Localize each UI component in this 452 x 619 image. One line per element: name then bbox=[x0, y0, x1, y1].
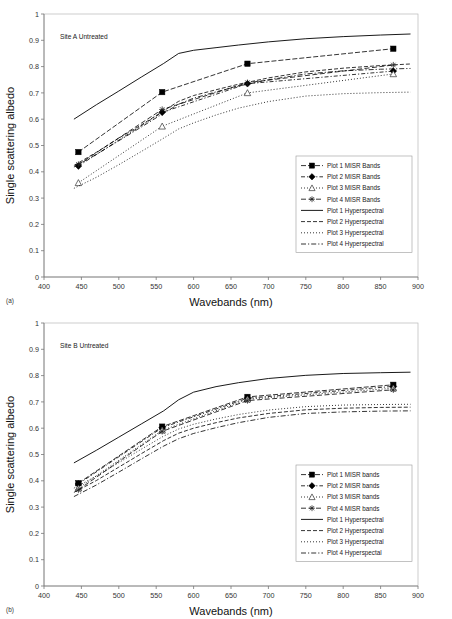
x-axis-title: Wavebands (nm) bbox=[189, 605, 272, 617]
x-axis-tick-label: 700 bbox=[262, 591, 274, 600]
y-axis-tick-label: 0.7 bbox=[29, 398, 39, 407]
x-axis-tick-label: 400 bbox=[38, 591, 50, 600]
marker-cross-star bbox=[75, 487, 81, 493]
x-axis-tick-label: 600 bbox=[188, 591, 200, 600]
series-2 bbox=[75, 68, 397, 170]
y-axis-title: Single scattering albedo bbox=[4, 87, 16, 204]
legend-label: Plot 3 MISR bands bbox=[327, 493, 380, 500]
marker-open-triangle bbox=[244, 90, 250, 96]
panel-label: (a) bbox=[6, 297, 14, 305]
y-axis-tick-label: 0.2 bbox=[29, 220, 39, 229]
x-axis-tick-label: 450 bbox=[75, 591, 87, 600]
figure-container: 00.10.20.30.40.50.60.70.80.9140045050055… bbox=[0, 0, 452, 619]
chart-svg: 00.10.20.30.40.50.60.70.80.9140045050055… bbox=[0, 0, 452, 309]
marker-cross-star bbox=[390, 387, 396, 393]
marker-open-triangle bbox=[159, 123, 165, 129]
marker-cross-star bbox=[309, 196, 315, 202]
y-axis-tick-label: 0.1 bbox=[29, 246, 39, 255]
x-axis-tick-label: 500 bbox=[113, 591, 125, 600]
y-axis-tick-label: 0 bbox=[35, 582, 39, 591]
marker-cross-star bbox=[309, 505, 315, 511]
x-axis-title: Wavebands (nm) bbox=[189, 296, 272, 308]
plot-annotation: Site B Untreated bbox=[60, 342, 109, 349]
x-axis-tick-label: 900 bbox=[412, 282, 424, 291]
marker-filled-square bbox=[309, 472, 314, 477]
chart-svg: 00.10.20.30.40.50.60.70.80.9140045050055… bbox=[0, 309, 452, 618]
series-path bbox=[74, 34, 411, 119]
series-4 bbox=[75, 62, 396, 168]
legend-label: Plot 3 Hyperspectral bbox=[327, 229, 384, 237]
marker-filled-square bbox=[309, 163, 314, 168]
series-5 bbox=[74, 372, 411, 463]
x-axis-tick-label: 800 bbox=[337, 591, 349, 600]
x-axis-tick-label: 500 bbox=[113, 282, 125, 291]
x-axis-tick-label: 700 bbox=[262, 282, 274, 291]
series-path bbox=[74, 64, 411, 166]
y-axis-tick-label: 0.6 bbox=[29, 424, 39, 433]
y-axis-tick-label: 0.3 bbox=[29, 194, 39, 203]
marker-open-triangle bbox=[75, 180, 81, 186]
x-axis-tick-label: 850 bbox=[375, 282, 387, 291]
y-axis-tick-label: 0.7 bbox=[29, 89, 39, 98]
legend-label: Plot 4 Hyperspectal bbox=[327, 549, 382, 557]
y-axis-title: Single scattering albedo bbox=[4, 396, 16, 513]
y-axis-tick-label: 0.9 bbox=[29, 36, 39, 45]
y-axis-tick-label: 0.6 bbox=[29, 115, 39, 124]
legend-label: Plot 2 Hyperspectral bbox=[327, 527, 384, 535]
y-axis-tick-label: 1 bbox=[35, 10, 39, 19]
y-axis-tick-label: 0.5 bbox=[29, 141, 39, 150]
legend-item[interactable]: Plot 1 MISR bands bbox=[301, 471, 380, 478]
chart-legend: Plot 1 MISR bandsPlot 2 MISR bandsPlot 3… bbox=[296, 465, 412, 562]
chart-legend: Plot 1 MISR BandsPlot 2 MISR BandsPlot 3… bbox=[296, 156, 412, 253]
x-axis-tick-label: 900 bbox=[412, 591, 424, 600]
x-axis-tick-label: 650 bbox=[225, 282, 237, 291]
series-path bbox=[78, 65, 393, 164]
plot-annotation: Site A Untreated bbox=[60, 33, 108, 40]
y-axis-tick-label: 0.8 bbox=[29, 62, 39, 71]
y-axis-tick-label: 0.5 bbox=[29, 450, 39, 459]
marker-filled-square bbox=[391, 46, 396, 51]
legend-label: Plot 1 MISR bands bbox=[327, 471, 380, 478]
x-axis-tick-label: 450 bbox=[75, 282, 87, 291]
legend-label: Plot 2 Hyperspectral bbox=[327, 218, 384, 226]
y-axis-tick-label: 0.4 bbox=[29, 476, 39, 485]
x-axis-tick-label: 550 bbox=[150, 282, 162, 291]
y-axis-tick-label: 1 bbox=[35, 319, 39, 328]
marker-filled-square bbox=[159, 89, 164, 94]
panel-label: (b) bbox=[6, 606, 14, 614]
series-path bbox=[74, 372, 411, 463]
x-axis-tick-label: 750 bbox=[300, 282, 312, 291]
x-axis-tick-label: 750 bbox=[300, 591, 312, 600]
legend-label: Plot 2 MISR bands bbox=[327, 482, 380, 489]
y-axis-tick-label: 0.9 bbox=[29, 345, 39, 354]
legend-item[interactable]: Plot 1 MISR Bands bbox=[301, 162, 380, 169]
series-1 bbox=[76, 46, 396, 155]
y-axis-tick-label: 0.8 bbox=[29, 371, 39, 380]
y-axis-tick-label: 0.4 bbox=[29, 167, 39, 176]
legend-label: Plot 4 MISR bands bbox=[327, 505, 380, 512]
series-6 bbox=[74, 64, 411, 166]
x-axis-tick-label: 850 bbox=[375, 591, 387, 600]
legend-label: Plot 3 MISR Bands bbox=[327, 184, 380, 191]
legend-label: Plot 3 Hyperspectral bbox=[327, 538, 384, 546]
y-axis-tick-label: 0.1 bbox=[29, 555, 39, 564]
marker-filled-square bbox=[245, 61, 250, 66]
y-axis-tick-label: 0.2 bbox=[29, 529, 39, 538]
legend-label: Plot 2 MISR Bands bbox=[327, 173, 380, 180]
x-axis-tick-label: 550 bbox=[150, 591, 162, 600]
y-axis-tick-label: 0 bbox=[35, 273, 39, 282]
legend-item[interactable]: Plot 2 MISR bands bbox=[301, 482, 380, 489]
y-axis-tick-label: 0.3 bbox=[29, 503, 39, 512]
x-axis-tick-label: 800 bbox=[337, 282, 349, 291]
chart-panel-a: 00.10.20.30.40.50.60.70.80.9140045050055… bbox=[0, 0, 452, 309]
marker-cross-star bbox=[244, 397, 250, 403]
x-axis-tick-label: 650 bbox=[225, 591, 237, 600]
x-axis-tick-label: 600 bbox=[188, 282, 200, 291]
legend-label: Plot 4 Hyperspectral bbox=[327, 240, 384, 248]
legend-label: Plot 1 MISR Bands bbox=[327, 162, 380, 169]
legend-label: Plot 1 Hyperspectral bbox=[327, 207, 384, 215]
legend-label: Plot 4 MISR Bands bbox=[327, 196, 380, 203]
marker-filled-square bbox=[76, 149, 81, 154]
series-5 bbox=[74, 34, 411, 119]
legend-item[interactable]: Plot 2 MISR Bands bbox=[301, 173, 380, 180]
